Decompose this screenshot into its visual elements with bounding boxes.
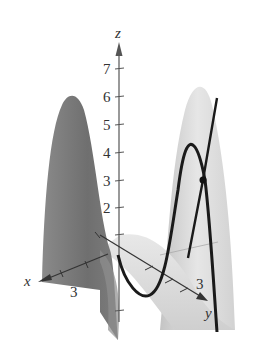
surface-plot: z 7 6 5 4 3 2 x 3 y 3 xyxy=(0,0,254,361)
marked-point xyxy=(200,177,207,184)
y-tick-3: 3 xyxy=(196,276,204,292)
z-axis-arrow xyxy=(116,42,123,56)
x-axis-label: x xyxy=(23,273,31,289)
x-tick-3: 3 xyxy=(70,284,78,300)
z-tick-4: 4 xyxy=(103,145,111,161)
y-axis-label: y xyxy=(203,305,212,321)
z-tick-7: 7 xyxy=(103,61,111,77)
z-tick-2: 2 xyxy=(103,200,111,216)
z-tick-3: 3 xyxy=(103,173,111,189)
z-tick-5: 5 xyxy=(103,117,111,133)
z-axis-label: z xyxy=(114,25,121,41)
z-tick-6: 6 xyxy=(103,89,111,105)
